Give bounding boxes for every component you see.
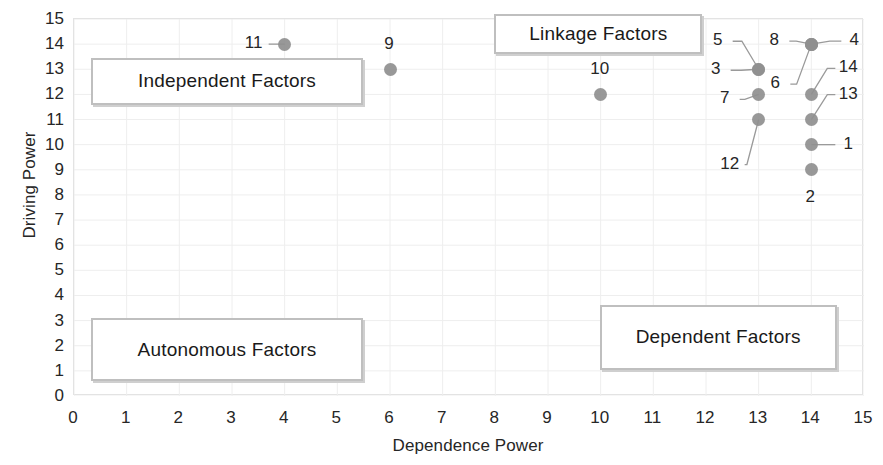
micmac-scatter-chart: Driving Power Dependence Power 151413121… [0,0,883,465]
x-tick-5: 5 [316,409,356,426]
x-tick-14: 14 [790,409,830,426]
data-point-label-1: 1 [844,135,853,152]
data-point-10[interactable] [594,88,607,101]
data-point-label-4: 4 [850,31,859,48]
data-point-label-14: 14 [839,58,858,75]
quadrant-label-independent: Independent Factors [91,58,362,104]
data-point-3[interactable] [752,63,765,76]
data-point-label-3: 3 [711,60,720,77]
data-point-7[interactable] [752,88,765,101]
x-tick-10: 10 [580,409,620,426]
quadrant-label-text: Dependent Factors [636,326,801,348]
data-point-label-13: 13 [839,85,858,102]
data-point-label-10: 10 [590,60,609,77]
data-point-6[interactable] [805,38,818,51]
quadrant-label-text: Autonomous Factors [138,339,317,361]
data-point-label-9: 9 [384,35,393,52]
quadrant-label-linkage: Linkage Factors [494,14,702,54]
x-tick-12: 12 [685,409,725,426]
x-tick-7: 7 [422,409,462,426]
data-point-label-2: 2 [806,188,815,205]
data-point-13[interactable] [805,113,818,126]
data-point-label-11: 11 [245,34,263,51]
x-tick-15: 15 [843,409,883,426]
x-tick-9: 9 [527,409,567,426]
quadrant-label-text: Independent Factors [138,70,316,92]
x-tick-1: 1 [106,409,146,426]
data-point-label-7: 7 [720,89,729,106]
x-tick-2: 2 [158,409,198,426]
data-point-label-5: 5 [713,31,722,48]
data-point-1[interactable] [805,138,818,151]
quadrant-label-autonomous: Autonomous Factors [91,318,362,381]
data-point-label-8: 8 [770,31,779,48]
data-point-11[interactable] [278,38,291,51]
x-tick-3: 3 [211,409,251,426]
x-tick-6: 6 [369,409,409,426]
data-point-9[interactable] [384,63,397,76]
quadrant-label-dependent: Dependent Factors [600,305,837,370]
x-tick-4: 4 [264,409,304,426]
data-point-14[interactable] [805,88,818,101]
data-point-label-6: 6 [771,74,780,91]
x-tick-13: 13 [738,409,778,426]
x-tick-8: 8 [474,409,514,426]
x-tick-0: 0 [53,409,93,426]
data-point-label-12: 12 [720,155,739,172]
quadrant-label-text: Linkage Factors [529,23,667,45]
x-tick-11: 11 [632,409,672,426]
